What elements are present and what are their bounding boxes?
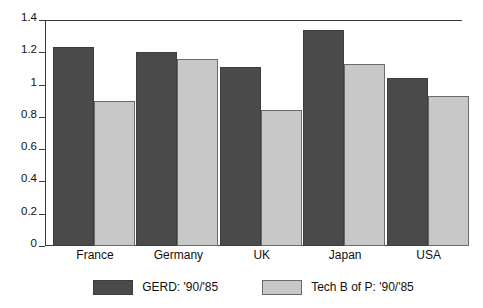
y-axis-tick-label: 1 (31, 77, 37, 89)
bars-layer (45, 20, 462, 246)
legend-label: GERD: '90/'85 (142, 280, 218, 294)
y-axis: 00.20.40.60.811.21.4 (0, 20, 45, 246)
bar-group (303, 20, 387, 246)
y-axis-tick-label: 1.4 (21, 12, 37, 24)
y-axis-tick-label: 0.2 (21, 206, 37, 218)
y-axis-tick-label: 0.8 (21, 109, 37, 121)
y-axis-tick-label: 0.4 (21, 173, 37, 185)
legend-swatch-icon (93, 280, 133, 295)
bar[interactable] (303, 30, 344, 246)
legend-label: Tech B of P: '90/'85 (311, 280, 414, 294)
bar[interactable] (53, 47, 94, 246)
y-axis-tick-label: 1.2 (21, 44, 37, 56)
bar-chart-figure: 00.20.40.60.811.21.4 FranceGermanyUKJapa… (0, 0, 483, 308)
x-axis-tick-label: USA (375, 248, 483, 262)
bar[interactable] (387, 78, 428, 246)
bar[interactable] (94, 101, 135, 246)
bar-group (53, 20, 137, 246)
y-axis-tick-mark (39, 246, 45, 247)
legend-entry[interactable]: Tech B of P: '90/'85 (262, 280, 414, 295)
x-axis: FranceGermanyUKJapanUSA (45, 248, 462, 268)
bar[interactable] (220, 67, 261, 246)
bar[interactable] (177, 59, 218, 246)
bar[interactable] (136, 52, 177, 246)
bar[interactable] (428, 96, 469, 246)
y-axis-tick-label: 0.6 (21, 141, 37, 153)
chart-legend: GERD: '90/'85Tech B of P: '90/'85 (45, 276, 462, 298)
bar[interactable] (261, 110, 302, 246)
legend-entry[interactable]: GERD: '90/'85 (93, 280, 218, 295)
legend-swatch-icon (262, 280, 302, 295)
bar-group (387, 20, 471, 246)
bar-group (136, 20, 220, 246)
y-axis-tick-label: 0 (31, 238, 37, 250)
bar[interactable] (344, 64, 385, 246)
bar-group (220, 20, 304, 246)
